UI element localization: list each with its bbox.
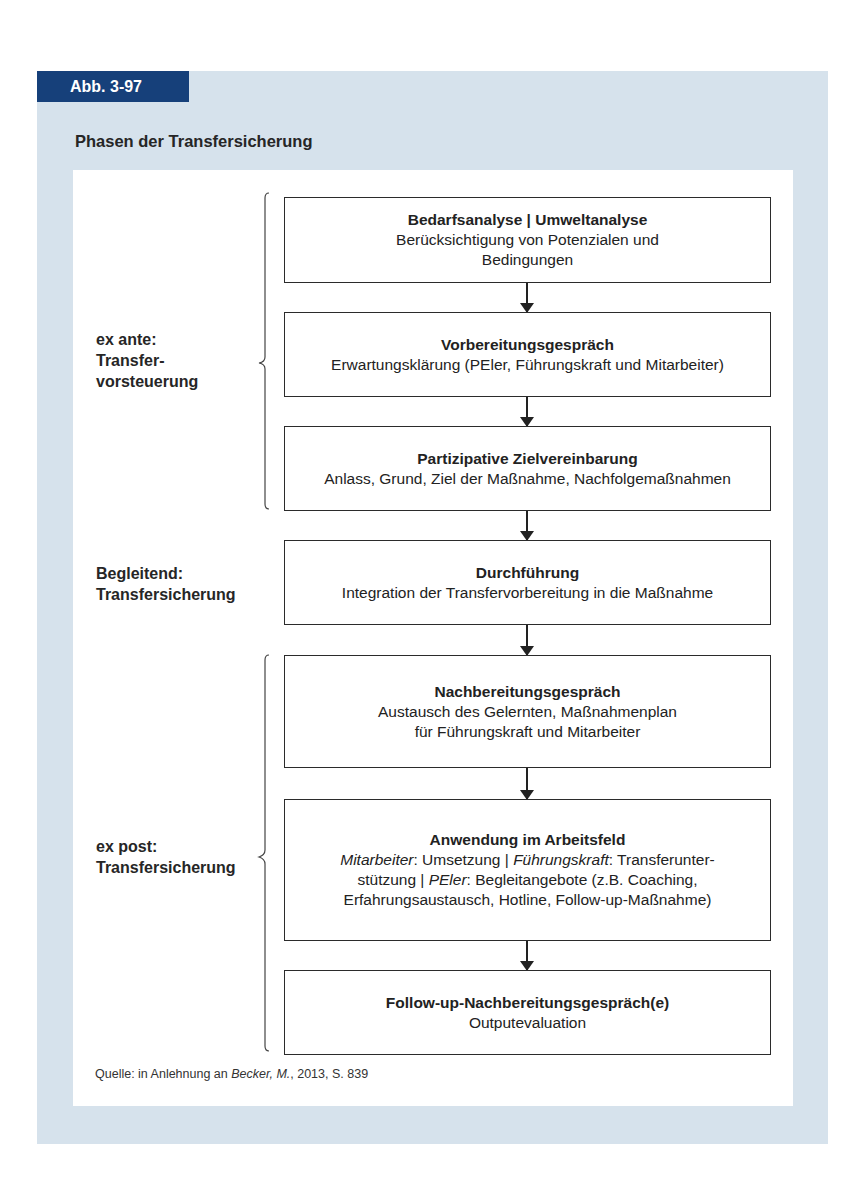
- figure-title: Phasen der Transfersicherung: [75, 132, 313, 151]
- step-description: Erfahrungsaustausch, Hotline, Follow-up-…: [344, 890, 712, 910]
- step-description: Austausch des Gelernten, Maßnahmenplan: [378, 702, 677, 722]
- step-description: Erwartungsklärung (PEler, Führungskraft …: [331, 355, 724, 375]
- step-title: Durchführung: [476, 563, 579, 583]
- arrow-down-icon: [526, 625, 528, 655]
- step-bedarfsanalyse: Bedarfsanalyse | Umweltanalyse Berücksic…: [284, 197, 771, 283]
- phase-label-ex-post: ex post: Transfersicherung: [96, 836, 236, 878]
- step-title: Anwendung im Arbeitsfeld: [430, 830, 626, 850]
- step-title: Vorbereitungsgespräch: [441, 335, 614, 355]
- source-author: Becker, M.: [231, 1067, 290, 1081]
- step-description: Mitarbeiter: Umsetzung | Führungskraft: …: [340, 850, 714, 870]
- phase-label-line: Transfer-: [96, 350, 198, 371]
- step-description: für Führungskraft und Mitarbeiter: [415, 722, 641, 742]
- step-description: Anlass, Grund, Ziel der Maßnahme, Nachfo…: [324, 469, 731, 489]
- step-description: Integration der Transfervorbereitung in …: [342, 583, 713, 603]
- diagram-area: [73, 170, 793, 1106]
- left-curly-brace-icon: [255, 654, 271, 1052]
- step-title: Nachbereitungsgespräch: [434, 682, 620, 702]
- step-text: : Begleitangebote (z.B. Coaching,: [467, 871, 698, 888]
- phase-label-begleitend: Begleitend: Transfersicherung: [96, 563, 236, 605]
- phase-label-line: ex post:: [96, 836, 236, 857]
- step-durchfuehrung: Durchführung Integration der Transfervor…: [284, 540, 771, 625]
- step-anwendung: Anwendung im Arbeitsfeld Mitarbeiter: Um…: [284, 799, 771, 941]
- figure-label-tab: Abb. 3-97: [37, 71, 189, 102]
- step-description: stützung | PEler: Begleitangebote (z.B. …: [357, 870, 697, 890]
- role-label: PEler: [429, 871, 467, 888]
- step-text: stützung |: [357, 871, 428, 888]
- source-text: , 2013, S. 839: [290, 1067, 368, 1081]
- arrow-down-icon: [526, 397, 528, 426]
- step-title: Bedarfsanalyse | Umweltanalyse: [408, 210, 648, 230]
- step-title: Partizipative Zielvereinbarung: [417, 449, 638, 469]
- step-title: Follow-up-Nachbereitungsgespräch(e): [386, 993, 669, 1013]
- role-label: Mitarbeiter: [340, 851, 413, 868]
- phase-label-ex-ante: ex ante: Transfer- vorsteuerung: [96, 329, 198, 392]
- phase-label-line: Transfersicherung: [96, 584, 236, 605]
- arrow-down-icon: [526, 283, 528, 312]
- source-citation: Quelle: in Anlehnung an Becker, M., 2013…: [95, 1067, 368, 1081]
- phase-label-line: Transfersicherung: [96, 857, 236, 878]
- step-zielvereinbarung: Partizipative Zielvereinbarung Anlass, G…: [284, 426, 771, 511]
- arrow-down-icon: [526, 511, 528, 540]
- step-nachbereitungsgespraech: Nachbereitungsgespräch Austausch des Gel…: [284, 655, 771, 768]
- role-label: Führungskraft: [513, 851, 609, 868]
- step-description: Outputevaluation: [469, 1013, 586, 1033]
- step-text: : Umsetzung |: [413, 851, 513, 868]
- phase-label-line: Begleitend:: [96, 563, 236, 584]
- source-text: Quelle: in Anlehnung an: [95, 1067, 231, 1081]
- step-description: Berücksichtigung von Potenzialen und: [396, 230, 659, 250]
- step-vorbereitungsgespraech: Vorbereitungsgespräch Erwartungsklärung …: [284, 312, 771, 397]
- step-description: Bedingungen: [482, 250, 573, 270]
- arrow-down-icon: [526, 941, 528, 970]
- left-curly-brace-icon: [255, 192, 271, 510]
- phase-label-line: vorsteuerung: [96, 371, 198, 392]
- step-follow-up: Follow-up-Nachbereitungsgespräch(e) Outp…: [284, 970, 771, 1055]
- arrow-down-icon: [526, 768, 528, 799]
- step-text: : Transferunter-: [609, 851, 715, 868]
- phase-label-line: ex ante:: [96, 329, 198, 350]
